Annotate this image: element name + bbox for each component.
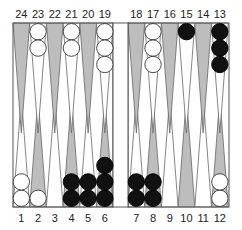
point-label-12: 12 [214,212,226,224]
black-checker-point-7[interactable] [128,190,144,206]
black-checker-point-6[interactable] [97,174,113,190]
white-checker-point-23[interactable] [30,24,46,40]
point-label-23: 23 [32,8,44,20]
point-label-14: 14 [197,8,209,20]
point-label-5: 5 [85,212,91,224]
point-label-1: 1 [18,212,24,224]
white-checker-point-12[interactable] [212,174,228,190]
black-checker-point-5[interactable] [80,190,96,206]
point-24[interactable] [13,23,30,133]
white-checker-point-19[interactable] [97,24,113,40]
point-label-11: 11 [197,212,208,224]
point-label-8: 8 [150,212,156,224]
point-label-19: 19 [99,8,111,20]
black-checker-point-6[interactable] [97,157,113,173]
white-checker-point-19[interactable] [97,56,113,72]
black-checker-point-13[interactable] [212,24,228,40]
point-label-6: 6 [102,212,108,224]
point-label-15: 15 [180,8,192,20]
bar[interactable] [113,23,128,207]
point-label-18: 18 [130,8,142,20]
black-checker-point-4[interactable] [63,190,79,206]
white-checker-point-21[interactable] [63,24,79,40]
black-checker-point-6[interactable] [97,190,113,206]
white-checker-point-17[interactable] [145,24,161,40]
point-label-13: 13 [214,8,226,20]
point-16[interactable] [161,23,178,133]
point-label-7: 7 [133,212,139,224]
point-label-2: 2 [35,212,41,224]
black-checker-point-13[interactable] [212,40,228,56]
white-checker-point-17[interactable] [145,40,161,56]
point-label-4: 4 [68,212,74,224]
white-checker-point-17[interactable] [145,56,161,72]
white-checker-point-19[interactable] [97,40,113,56]
point-label-10: 10 [180,212,192,224]
black-checker-point-8[interactable] [145,174,161,190]
point-18[interactable] [128,23,145,133]
point-label-16: 16 [164,8,176,20]
point-label-24: 24 [15,8,27,20]
white-checker-point-1[interactable] [13,190,29,206]
point-14[interactable] [195,23,212,133]
point-22[interactable] [46,23,63,133]
white-checker-point-23[interactable] [30,40,46,56]
white-checker-point-2[interactable] [30,190,46,206]
point-label-3: 3 [52,212,58,224]
point-label-20: 20 [82,8,94,20]
backgammon-board: 242322212019181716151413123456789101112 [0,0,242,230]
black-checker-point-4[interactable] [63,174,79,190]
point-20[interactable] [80,23,97,133]
black-checker-point-5[interactable] [80,174,96,190]
black-checker-point-7[interactable] [128,174,144,190]
white-checker-point-1[interactable] [13,174,29,190]
point-label-21: 21 [65,8,77,20]
black-checker-point-15[interactable] [178,24,194,40]
black-checker-point-8[interactable] [145,190,161,206]
point-label-9: 9 [167,212,173,224]
point-label-17: 17 [147,8,159,20]
white-checker-point-21[interactable] [63,40,79,56]
point-label-22: 22 [49,8,61,20]
black-checker-point-13[interactable] [212,56,228,72]
white-checker-point-12[interactable] [212,190,228,206]
